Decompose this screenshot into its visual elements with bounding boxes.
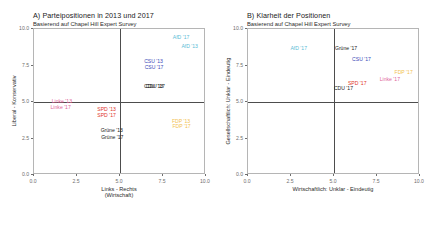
panel-a-x-tick-mark (119, 174, 120, 176)
data-point-label-afd-2013: AfD '13 (181, 44, 198, 49)
panel-b-horizontal-reference-line (248, 102, 418, 103)
data-point-label-cdu-2017: CDU '17 (334, 87, 353, 92)
data-point-label-afd-2017: AfD '17 (173, 35, 190, 40)
panel-a-y-tick-mark (31, 28, 33, 29)
data-point-label-fdp-2017: FDP '17 (172, 124, 190, 129)
panel-b-x-tick-label: 2.5 (286, 178, 293, 184)
panel-a-y-tick-label: 0.0 (17, 171, 29, 177)
panel-a-y-tick-mark (31, 138, 33, 139)
panel-a-x-axis-title-line2: (Wirtschaft) (101, 192, 136, 198)
panel-klarheit: B) Klarheit der Positionen Basierend auf… (214, 0, 428, 231)
panel-b-x-axis-title: Wirtschaftlich: Unklar - Eindeutig (293, 186, 374, 192)
panel-a-y-tick-mark (31, 65, 33, 66)
data-point-label-grune-2013: Grüne '13 (101, 128, 123, 133)
panel-b-y-tick-mark (245, 138, 247, 139)
panel-b-y-tick-mark (245, 174, 247, 175)
panel-b-y-tick-label: 2.5 (231, 135, 243, 141)
data-point-label-linke-2017: Linke '17 (51, 105, 71, 110)
data-point-label-csu-2017: CSU '17 (145, 65, 164, 70)
data-point-label-cdu-2017: CDU '17 (146, 85, 165, 90)
panel-a-plot-area: AfD '17AfD '13CSU '13CSU '17CDU '13CDU '… (33, 28, 205, 174)
panel-a-x-tick-mark (33, 174, 34, 176)
panel-a-y-tick-label: 2.5 (17, 135, 29, 141)
panel-b-x-tick-label: 0.0 (243, 178, 250, 184)
data-point-label-afd-2017: AfD '17 (290, 47, 307, 52)
panel-b-y-tick-mark (245, 65, 247, 66)
panel-a-y-tick-mark (31, 101, 33, 102)
panel-b-x-tick-mark (419, 174, 420, 176)
panel-b-plot-area: AfD '17Grüne '17CSU '17FDP '17Linke '17S… (247, 28, 419, 174)
panel-a-subtitle: Basierend auf Chapel Hill Expert Survey (33, 21, 136, 27)
panel-b-x-tick-mark (333, 174, 334, 176)
panel-b-x-tick-label: 10.0 (414, 178, 424, 184)
panel-a-y-tick-label: 7.5 (17, 62, 29, 68)
panel-a-y-tick-mark (31, 174, 33, 175)
panel-b-y-tick-label: 10.0 (231, 25, 243, 31)
panel-b-x-axis-title-line1: Wirtschaftlich: Unklar - Eindeutig (293, 186, 374, 192)
panel-b-y-tick-label: 0.0 (231, 171, 243, 177)
data-point-label-linke-2017: Linke '17 (380, 78, 400, 83)
panel-b-x-tick-label: 5.0 (329, 178, 336, 184)
panel-b-title: B) Klarheit der Positionen (247, 11, 330, 20)
panel-a-x-tick-label: 0.0 (29, 178, 36, 184)
panel-a-x-tick-label: 5.0 (115, 178, 122, 184)
panel-a-x-axis-title: Links - Rechts (Wirtschaft) (101, 186, 136, 198)
panel-a-vertical-reference-line (120, 29, 121, 173)
data-point-label-grune-2017: Grüne '17 (335, 47, 357, 52)
panel-a-x-tick-mark (162, 174, 163, 176)
data-point-label-fdp-2017: FDP '17 (395, 70, 413, 75)
panel-b-x-tick-mark (376, 174, 377, 176)
panel-a-x-tick-mark (76, 174, 77, 176)
panel-b-x-tick-mark (247, 174, 248, 176)
panel-b-y-tick-label: 7.5 (231, 62, 243, 68)
panel-b-y-tick-mark (245, 101, 247, 102)
figure-canvas: A) Parteipositionen in 2013 und 2017 Bas… (0, 0, 428, 231)
panel-b-x-tick-label: 7.5 (372, 178, 379, 184)
data-point-label-csu-2017: CSU '17 (352, 58, 371, 63)
panel-b-y-tick-mark (245, 28, 247, 29)
panel-a-x-tick-label: 7.5 (158, 178, 165, 184)
panel-b-x-tick-mark (290, 174, 291, 176)
panel-a-y-tick-label: 5.0 (17, 98, 29, 104)
panel-a-title: A) Parteipositionen in 2013 und 2017 (33, 11, 154, 20)
panel-a-y-tick-label: 10.0 (17, 25, 29, 31)
panel-b-y-tick-label: 5.0 (231, 98, 243, 104)
panel-a-x-tick-label: 10.0 (200, 178, 210, 184)
data-point-label-grune-2017: Grüne '17 (101, 135, 123, 140)
data-point-label-spd-2017: SPD '17 (97, 113, 116, 118)
panel-b-subtitle: Basierend auf Chapel Hill Expert Survey (247, 21, 350, 27)
panel-a-x-tick-mark (205, 174, 206, 176)
panel-a-x-tick-label: 2.5 (72, 178, 79, 184)
panel-parteipositionen: A) Parteipositionen in 2013 und 2017 Bas… (0, 0, 214, 231)
